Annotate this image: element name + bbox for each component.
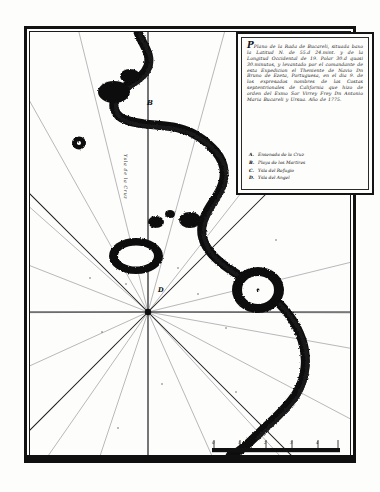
scale-bar-numerals: 0 1 2 3 4 <box>212 440 342 449</box>
scale-tick-2: 2 <box>264 440 267 445</box>
legend-item-d: D. Ysla del Angel <box>249 175 369 181</box>
rock-cluster-inlet <box>148 210 201 228</box>
island-D <box>109 238 163 274</box>
chart-neatline-bottom-heavy <box>24 455 356 463</box>
legend-label-b: Playa de los Martires <box>258 160 305 166</box>
map-label-D: D <box>158 286 164 294</box>
island-C <box>232 267 284 313</box>
title-cartouche: PPlano de la Rada de Bucareli, situada b… <box>236 32 374 195</box>
cartouche-title-text: PPlano de la Rada de Bucareli, situada b… <box>247 42 363 103</box>
legend-item-b: B. Playa de los Martires <box>249 160 369 166</box>
scale-tick-4: 4 <box>316 440 319 445</box>
legend-label-c: Ysla del Refugio <box>258 168 294 174</box>
islet-annotation-text: Ysla de la Cruz <box>118 154 128 212</box>
legend-key-d: D. <box>249 175 255 180</box>
map-sheet: B D Ysla de la Cruz 0 1 2 3 4 PPlano de … <box>0 0 380 492</box>
map-label-B: B <box>147 98 153 107</box>
legend-list: A. Ensenada de la Cruz B. Playa de los M… <box>249 152 369 183</box>
islet-northwest <box>72 137 86 150</box>
legend-label-a: Ensenada de la Cruz <box>258 152 304 158</box>
scale-tick-0: 0 <box>212 440 215 445</box>
title-cartouche-inner: PPlano de la Rada de Bucareli, situada b… <box>241 37 369 190</box>
legend-label-d: Ysla del Angel <box>258 175 290 181</box>
cartouche-dropcap: P <box>247 40 254 50</box>
cartouche-title-body: Plano de la Rada de Bucareli, situada ba… <box>247 44 363 102</box>
scale-tick-3: 3 <box>290 440 293 445</box>
legend-key-b: B. <box>249 160 255 165</box>
legend-item-a: A. Ensenada de la Cruz <box>249 152 369 158</box>
compass-centre-node <box>145 309 151 315</box>
scale-tick-1: 1 <box>238 440 241 445</box>
legend-key-a: A. <box>249 152 255 157</box>
legend-item-c: C. Ysla del Refugio <box>249 168 369 174</box>
legend-key-c: C. <box>249 168 255 173</box>
